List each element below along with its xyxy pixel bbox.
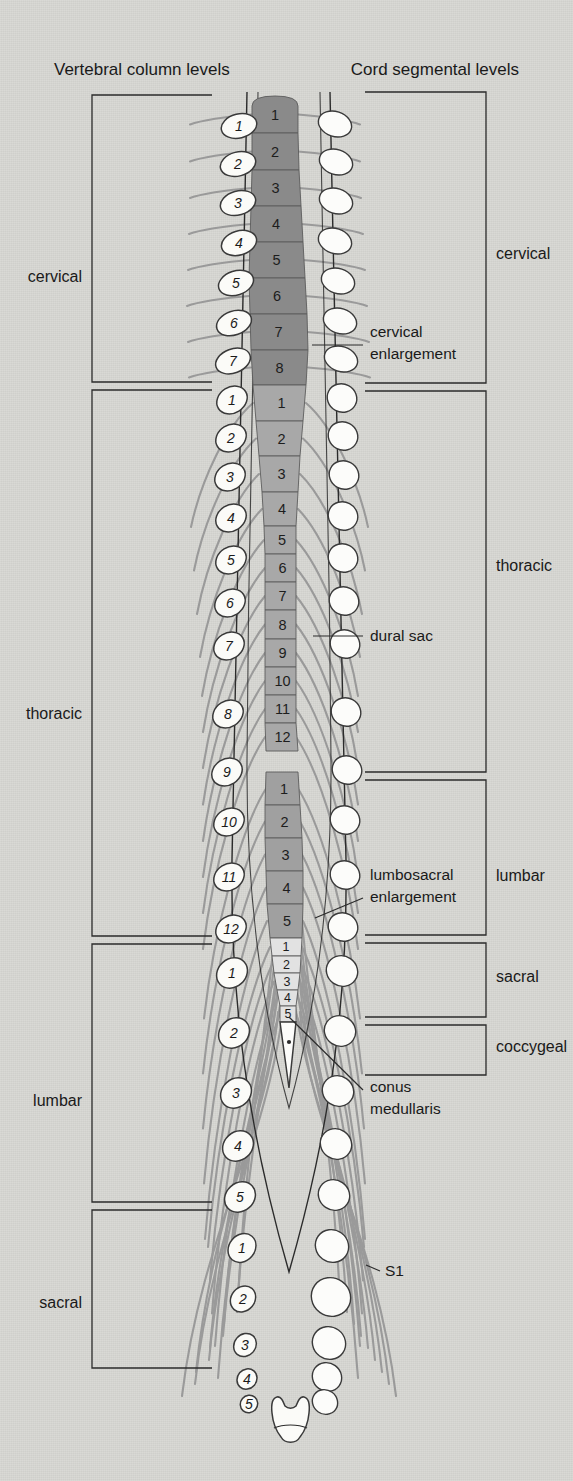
cord-segment-number: 2	[283, 958, 290, 972]
annotation-text: lumbosacral	[370, 866, 454, 883]
cord-segment-number: 6	[273, 288, 281, 304]
level-bracket: cervical	[28, 95, 212, 382]
spinal-cord-diagram: Vertebral column levels Cord segmental l…	[0, 0, 573, 1481]
vertebra-number: 2	[226, 430, 235, 446]
vertebra-number: 2	[238, 1291, 247, 1307]
foramen-outline	[315, 224, 355, 258]
level-bracket: thoracic	[365, 391, 552, 772]
cord-segment-number: 3	[277, 466, 285, 482]
bracket-label: coccygeal	[496, 1038, 567, 1055]
cord-segment: 8	[265, 610, 296, 639]
intervertebral-foramen	[307, 1385, 342, 1420]
title-vertebral-column-levels: Vertebral column levels	[54, 60, 230, 79]
vertebra-number: 11	[222, 869, 237, 885]
bracket-label: thoracic	[26, 705, 82, 722]
cord-segment-number: 3	[281, 847, 289, 863]
cord-segment-number: 8	[275, 360, 283, 376]
foramen-outline	[323, 417, 363, 456]
cord-segment-number: 2	[277, 431, 285, 447]
cord-segment: 2	[256, 421, 303, 456]
cord-segment-number: 11	[275, 701, 290, 717]
intervertebral-foramen	[315, 224, 355, 258]
bracket-label: cervical	[496, 245, 550, 262]
cord-segment: 4	[277, 990, 298, 1006]
cord-segment: 2	[265, 805, 302, 838]
cord-segment-number: 2	[271, 144, 279, 160]
annotation-text: cervical	[370, 323, 423, 340]
bracket-label: thoracic	[496, 557, 552, 574]
figure-canvas: Vertebral column levels Cord segmental l…	[0, 0, 573, 1481]
intervertebral-foramen	[321, 342, 361, 376]
vertebra-number: 8	[224, 706, 232, 722]
level-bracket: thoracic	[26, 390, 212, 936]
cord-segment-number: 4	[284, 991, 291, 1005]
vertebral-level-brackets: cervicalthoraciclumbarsacral	[26, 95, 212, 1368]
vertebra-number: 4	[243, 1371, 251, 1387]
vertebra-number: 5	[232, 275, 240, 291]
cord-segment: 3	[259, 456, 300, 492]
cord-segment-number: 10	[274, 673, 290, 689]
bracket-label: lumbar	[496, 867, 546, 884]
bracket-label: cervical	[28, 268, 82, 285]
cord-segment: 4	[266, 871, 303, 904]
nerve-root-left	[188, 260, 250, 270]
foramen-outline	[314, 1123, 357, 1166]
foramen-outline	[307, 1385, 342, 1420]
vertebra-number: 3	[234, 195, 242, 211]
vertebra-number: 6	[230, 315, 238, 331]
cord-segment-number: 9	[278, 645, 286, 661]
foramen-outline	[321, 342, 361, 376]
intervertebral-foramen	[325, 856, 365, 895]
spinal-cord-segments: 123456781234567891011121234512345	[249, 96, 308, 1022]
vertebra-body: 8	[208, 694, 249, 733]
conus-medullaris-tip	[280, 1022, 296, 1088]
cord-segment-number: 5	[272, 252, 280, 268]
bracket-label: sacral	[39, 1294, 82, 1311]
vertebra-body: 1	[210, 952, 253, 995]
intervertebral-foramen	[324, 582, 364, 621]
bracket-path	[365, 1025, 486, 1075]
cord-segment: 9	[265, 639, 296, 667]
cord-segment-number: 12	[274, 729, 290, 745]
cord-segment-number: 4	[282, 880, 290, 896]
intervertebral-foramen	[327, 751, 367, 790]
coccyx-shape	[272, 1397, 310, 1442]
annotation-text: S1	[385, 1262, 404, 1279]
vertebra-body: 11	[209, 857, 250, 896]
intervertebral-foramen	[314, 1123, 357, 1166]
foramen-outline	[325, 856, 365, 895]
vertebra-number: 2	[233, 156, 242, 172]
cord-segment-number: 7	[274, 324, 282, 340]
annotation-text: enlargement	[370, 888, 457, 905]
level-bracket: lumbar	[33, 944, 212, 1202]
title-cord-segmental-levels: Cord segmental levels	[351, 60, 519, 79]
vertebra-number: 5	[227, 552, 235, 568]
intervertebral-foramen	[322, 379, 362, 418]
vertebra-number: 7	[229, 353, 238, 369]
bracket-path	[365, 391, 486, 772]
cord-segment-number: 3	[271, 180, 279, 196]
cord-segment: 4	[262, 492, 298, 526]
vertebra-body: 6	[210, 583, 251, 622]
vertebra-number: 10	[221, 814, 237, 830]
cord-segment: 5	[249, 242, 305, 278]
foramen-outline	[306, 1320, 352, 1366]
vertebra-number: 1	[235, 118, 243, 134]
cord-segment-number: 1	[277, 395, 285, 411]
vertebra-body: 4	[233, 1365, 261, 1394]
vertebra-body: 3	[229, 1329, 261, 1361]
cord-segment-number: 1	[271, 107, 279, 123]
cord-segment: 1	[253, 385, 306, 421]
bracket-label: lumbar	[33, 1092, 83, 1109]
conus-tip-dot	[287, 1040, 291, 1044]
cord-level-brackets: cervicalthoraciclumbarsacralcoccygeal	[365, 92, 567, 1075]
intervertebral-foramen	[306, 1320, 352, 1366]
vertebra-body: 1	[212, 380, 253, 419]
vertebra-number: 1	[228, 392, 236, 408]
vertebra-number: 3	[241, 1337, 249, 1353]
bracket-path	[365, 780, 486, 935]
foramen-outline	[327, 751, 367, 790]
vertebra-number: 1	[238, 1240, 246, 1256]
nerve-root-right	[305, 296, 367, 306]
cord-segment-number: 4	[278, 501, 286, 517]
